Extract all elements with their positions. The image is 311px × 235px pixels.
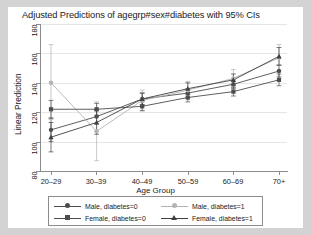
x-axis-title: Age Group [0,186,311,195]
x-tick [188,171,189,175]
gridline [41,142,287,143]
gridline [41,53,287,54]
x-tick-label: 20–29 [41,177,62,186]
x-tick-label: 70+ [273,177,286,186]
x-tick [142,171,143,175]
x-tick-label: 30–39 [86,177,107,186]
y-tick-label: 120 [30,113,39,137]
x-tick [51,171,52,175]
chart-window: Adjusted Predictions of agegrp#sex#diabe… [0,0,311,235]
x-tick [96,171,97,175]
legend-label: Female, diabetes=1 [192,215,253,222]
x-axis-line [41,171,288,172]
chart-title: Adjusted Predictions of agegrp#sex#diabe… [22,10,260,20]
x-tick-label: 50–59 [178,177,199,186]
plot-area [41,24,287,171]
y-tick-label: 100 [30,142,39,166]
x-tick [233,171,234,175]
y-tick-label: 140 [30,83,39,107]
y-axis-line [40,24,41,171]
legend-label: Male, diabetes=1 [192,203,245,210]
legend-marker-male-diabetes-0 [54,201,81,211]
y-tick-label: 160 [30,54,39,78]
chart-legend: Male, diabetes=0 Female, diabetes=0 Male… [48,196,263,226]
x-tick-label: 40–49 [132,177,153,186]
y-axis-title: Linear Prediction [14,74,23,135]
legend-item[interactable]: Female, diabetes=1 [161,212,253,224]
legend-marker-female-diabetes-1 [161,213,188,223]
legend-marker-male-diabetes-1 [161,201,188,211]
legend-marker-female-diabetes-0 [54,213,81,223]
legend-item[interactable]: Male, diabetes=0 [54,200,138,212]
legend-label: Female, diabetes=0 [85,215,146,222]
x-tick [279,171,280,175]
x-tick-label: 60–69 [223,177,244,186]
gridline [41,83,287,84]
legend-item[interactable]: Female, diabetes=0 [54,212,146,224]
legend-label: Male, diabetes=0 [85,203,138,210]
y-tick-label: 180 [30,25,39,49]
gridline [41,24,287,25]
legend-item[interactable]: Male, diabetes=1 [161,200,245,212]
gridline [41,112,287,113]
